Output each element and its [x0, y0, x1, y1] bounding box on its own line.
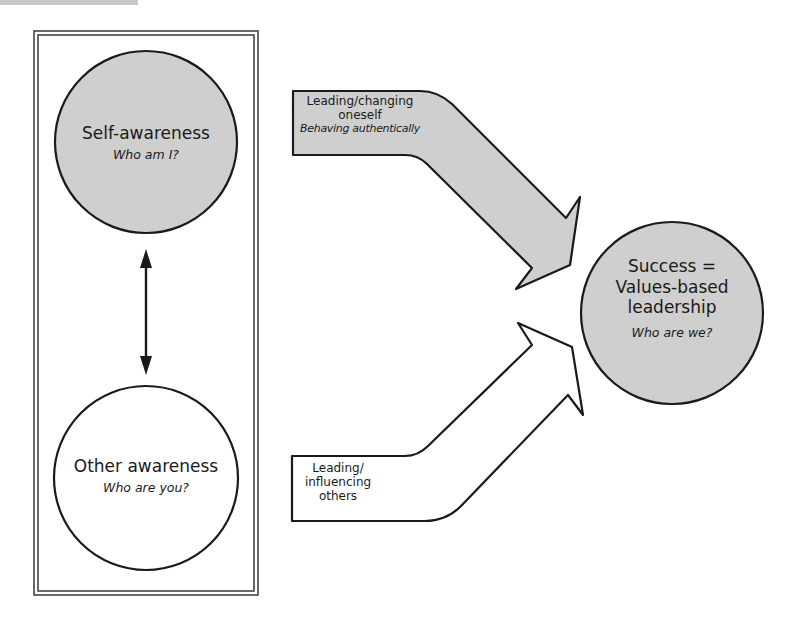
self-awareness-question: Who am I? — [56, 148, 236, 162]
leading-oneself-line2: oneself — [296, 109, 424, 123]
success-line2: Values-based — [588, 277, 756, 298]
success-line3: leadership — [588, 297, 756, 318]
leading-oneself-line1: Leading/changing — [296, 95, 424, 109]
other-awareness-label: Other awareness Who are you? — [54, 457, 238, 495]
leading-others-line1: Leading/ — [296, 462, 380, 476]
self-awareness-label: Self-awareness Who am I? — [56, 124, 236, 162]
leading-oneself-label: Leading/changing oneself Behaving authen… — [296, 95, 424, 135]
success-label: Success = Values-based leadership Who ar… — [588, 256, 756, 341]
other-awareness-title: Other awareness — [54, 457, 238, 477]
success-question: Who are we? — [588, 326, 756, 340]
leading-oneself-subtitle: Behaving authentically — [296, 123, 424, 136]
leading-others-line2: influencing — [296, 476, 380, 490]
self-awareness-title: Self-awareness — [56, 124, 236, 144]
leading-others-label: Leading/ influencing others — [296, 462, 380, 503]
success-line1: Success = — [588, 256, 756, 277]
double-arrow-icon — [140, 249, 152, 375]
leading-others-line3: others — [296, 490, 380, 504]
other-awareness-question: Who are you? — [54, 481, 238, 495]
